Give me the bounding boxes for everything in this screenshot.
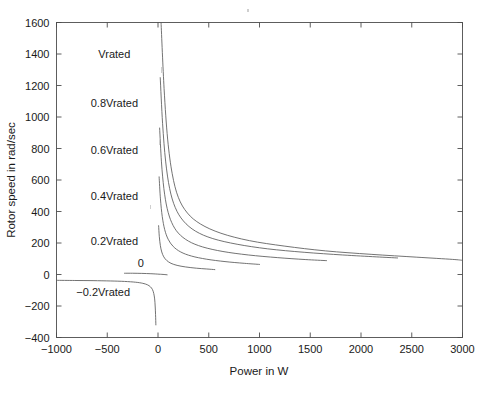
y-tick-label: 1600 [25, 17, 49, 29]
y-axis-title: Rotor speed in rad/sec [5, 122, 17, 238]
x-tick-label: 2000 [349, 343, 373, 355]
y-tick-label: 1400 [25, 48, 49, 60]
annotation-0-8vrated: 0.8Vrated [91, 97, 138, 109]
scan-speck [161, 67, 162, 73]
curve-series-group [57, 23, 463, 325]
y-tick-label: 1000 [25, 111, 49, 123]
y-tick-label: 200 [31, 237, 49, 249]
x-tick-label: −1000 [41, 343, 72, 355]
figure-container: −400−20002004006008001000120014001600 −1… [0, 0, 484, 395]
y-tick-label: 800 [31, 143, 49, 155]
curve-0-6vrated [160, 128, 327, 261]
curve-0 [125, 273, 168, 275]
x-tick-label: 2500 [400, 343, 424, 355]
x-tick-label: 1000 [247, 343, 271, 355]
scan-speck [247, 9, 249, 12]
x-tick-label: −500 [95, 343, 120, 355]
annotation-vrated: Vrated [98, 48, 130, 60]
x-axis-tick-labels: −1000−500050010001500200025003000 [41, 343, 475, 355]
rotor-speed-power-chart: −400−20002004006008001000120014001600 −1… [0, 0, 484, 395]
y-tick-label: 600 [31, 174, 49, 186]
y-tick-label: 0 [43, 269, 49, 281]
y-axis-tick-labels: −400−20002004006008001000120014001600 [25, 17, 50, 344]
x-axis-title: Power in W [230, 365, 289, 377]
x-tick-label: 1500 [298, 343, 322, 355]
x-tick-label: 3000 [450, 343, 474, 355]
annotation--0-2vrated: −0.2Vrated [76, 286, 130, 298]
figure-caption [0, 386, 484, 395]
annotation-0-6vrated: 0.6Vrated [91, 144, 138, 156]
scan-speck [150, 205, 151, 209]
y-tick-label: 1200 [25, 80, 49, 92]
curve-0-8vrated [160, 78, 397, 258]
y-tick-label: 400 [31, 206, 49, 218]
x-tick-label: 500 [200, 343, 218, 355]
annotation-0-2vrated: 0.2Vrated [91, 235, 138, 247]
annotation-0-4vrated: 0.4Vrated [91, 190, 138, 202]
scan-speck [159, 140, 160, 145]
curve-vrated [161, 23, 462, 261]
y-tick-label: −200 [25, 300, 50, 312]
curve-0-4vrated [159, 177, 259, 265]
x-tick-label: 0 [155, 343, 161, 355]
annotation-0: 0 [138, 257, 144, 269]
series-annotations: Vrated0.8Vrated0.6Vrated0.4Vrated0.2Vrat… [76, 48, 143, 298]
